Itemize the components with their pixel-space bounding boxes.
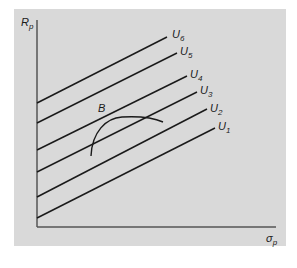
indifference-line-u6 xyxy=(37,37,167,103)
indifference-curves: U1U2U3U4U5U6 xyxy=(37,28,230,218)
indifference-label-u2: U2 xyxy=(210,102,223,117)
x-axis-label: σp xyxy=(266,232,278,247)
indifference-label-u3: U3 xyxy=(200,84,213,99)
frontier-label: B xyxy=(98,102,105,114)
indifference-label-u5: U5 xyxy=(180,45,193,60)
indifference-label-u1: U1 xyxy=(218,120,230,135)
y-axis-label: Rp xyxy=(21,16,34,31)
indifference-label-u6: U6 xyxy=(172,28,185,43)
indifference-line-u3 xyxy=(37,92,197,172)
indifference-line-u4 xyxy=(37,76,187,150)
indifference-label-u4: U4 xyxy=(190,68,203,83)
diagram-canvas: Rp σp U1U2U3U4U5U6 B xyxy=(0,0,297,268)
indifference-line-u1 xyxy=(37,128,215,218)
indifference-line-u2 xyxy=(37,109,207,197)
